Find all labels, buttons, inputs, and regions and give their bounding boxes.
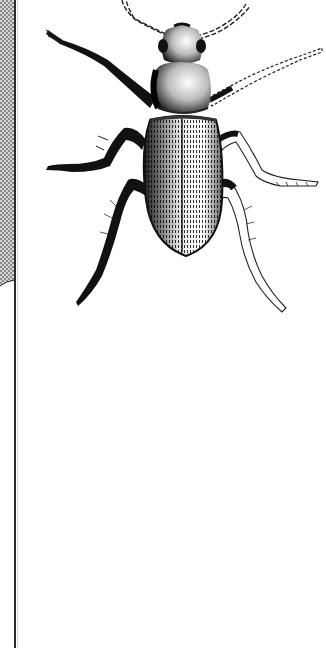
beetle-thorax: [153, 62, 211, 113]
eye-right: [196, 39, 206, 53]
middle-leg-right: [218, 132, 318, 186]
eye-left: [158, 39, 168, 53]
hind-leg-left: [76, 179, 148, 306]
beetle-illustration: [0, 0, 326, 648]
front-leg-left: [46, 30, 156, 108]
hind-leg-right: [216, 182, 286, 312]
antenna-right: [196, 4, 250, 39]
front-leg-right: [208, 48, 322, 106]
middle-leg-left: [46, 128, 146, 172]
antenna-left: [122, 0, 168, 36]
beetle-head: [158, 24, 206, 64]
beetle-elytra: [144, 116, 223, 256]
